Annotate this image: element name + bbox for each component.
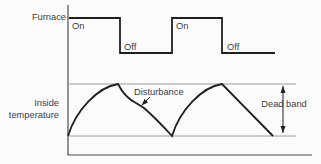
furnace-axis-label: Furnace bbox=[32, 12, 66, 22]
inside-temperature-label-line2: temperature bbox=[9, 110, 59, 120]
disturbance-label: Disturbance bbox=[134, 87, 184, 97]
diagram-canvas: Furnace On Off On Off Inside temperature… bbox=[0, 0, 321, 164]
furnace-deadband-diagram: Furnace On Off On Off Inside temperature… bbox=[0, 0, 321, 164]
dead-band-label: Dead band bbox=[261, 99, 307, 109]
furnace-off-label-1: Off bbox=[124, 42, 137, 52]
furnace-off-label-2: Off bbox=[227, 42, 240, 52]
inside-temperature-label-line1: Inside bbox=[34, 98, 59, 108]
furnace-on-label-1: On bbox=[72, 21, 84, 31]
furnace-on-label-2: On bbox=[176, 21, 188, 31]
diagram-background bbox=[0, 0, 321, 164]
